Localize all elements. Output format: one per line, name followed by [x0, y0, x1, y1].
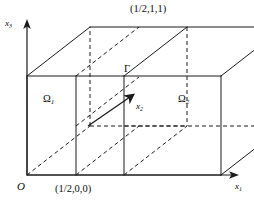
- diagram-svg: [0, 0, 254, 205]
- omega2-region-label: Ω2: [178, 94, 189, 106]
- omega1-symbol: Ω: [43, 93, 51, 104]
- gamma-top-receding-edge: [124, 27, 187, 76]
- bottom-vertex-coordinate-label: (1/2,0,0): [55, 184, 91, 195]
- inner-cut-square: [76, 27, 187, 175]
- gamma-bottom-receding-edge-hidden: [124, 126, 187, 175]
- x1-axis-label-subscript: 1: [239, 186, 242, 192]
- gamma-interface-label: Γ: [124, 64, 130, 75]
- inner-square-bottom-receding-hidden: [76, 126, 139, 175]
- origin-label: O: [17, 181, 25, 192]
- top-vertex-coordinate-label: (1/2,1,1): [130, 4, 166, 15]
- top-right-receding-edge: [221, 27, 254, 76]
- x1-axis-label: x1: [235, 182, 242, 193]
- x3-axis-label-subscript: 3: [9, 23, 12, 29]
- x3-axis-label: x3: [5, 19, 12, 30]
- omega2-symbol: Ω: [178, 93, 186, 104]
- x2-label-subscript: 2: [140, 106, 143, 112]
- x2-direction-label: x2: [136, 102, 143, 113]
- omega1-region-label: Ω1: [43, 94, 54, 106]
- x2-arrow-head: [123, 94, 135, 105]
- box-solid-edges: [27, 27, 254, 175]
- bottom-left-receding-edge-hidden: [27, 126, 90, 175]
- bottom-right-receding-edge: [221, 126, 254, 175]
- top-left-receding-edge: [27, 27, 90, 76]
- figure-canvas: x3 x1 O (1/2,1,1) (1/2,0,0) Ω1 Ω2 Γ x2: [0, 0, 254, 205]
- omega2-subscript: 2: [186, 98, 189, 105]
- omega1-subscript: 1: [51, 98, 54, 105]
